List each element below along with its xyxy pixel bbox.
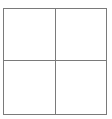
grid-vertical-divider — [55, 9, 56, 114]
grid-horizontal-divider — [4, 60, 106, 61]
grid-2x2-icon — [3, 8, 107, 115]
